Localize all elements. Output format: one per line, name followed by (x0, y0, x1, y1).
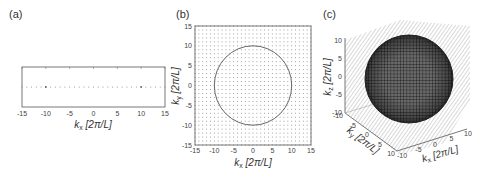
lattice-point (69, 86, 70, 87)
xtick-label: 0 (92, 110, 96, 117)
lattice-point (155, 86, 156, 87)
lattice-point (60, 86, 61, 87)
xtick-label: 0 (251, 147, 255, 154)
lattice-point (83, 86, 84, 87)
panel-b-ylabel: ky [2π/L] (170, 67, 183, 105)
lattice-point (64, 86, 65, 87)
lattice-point (55, 86, 56, 87)
ytick-label: 0 (188, 82, 192, 89)
lattice-point (112, 86, 113, 87)
lattice-point (145, 86, 146, 87)
ytick-label: -5 (186, 102, 192, 109)
figure-canvas: -15-10-5051015 kx [2π/L] -15-10-5051015 … (0, 0, 493, 179)
lattice-point (117, 86, 118, 87)
lattice-point (102, 86, 103, 87)
panel-b-xticks: -15-10-5051015 (190, 147, 315, 154)
lattice-point (98, 86, 99, 87)
ytick-label: -10 (182, 122, 192, 129)
xtick-label: 10 (288, 147, 296, 154)
ztick-label: 0 (338, 73, 342, 80)
lattice-point (50, 86, 51, 87)
lattice-point (79, 86, 80, 87)
lattice-point (36, 86, 37, 87)
lattice-point (74, 86, 75, 87)
lattice-point (126, 86, 127, 87)
ytick-label: -15 (182, 142, 192, 149)
ytick-label: 15 (184, 23, 192, 30)
panel-b-yticks: 151050-5-10-15 (182, 23, 192, 149)
lattice-point (88, 86, 89, 87)
xtick-label: -10 (209, 147, 219, 154)
xtick-label: -10 (397, 152, 407, 159)
panel-b-xlabel: kx [2π/L] (234, 157, 272, 169)
xtick-label: 0 (433, 141, 437, 148)
xtick-label: 5 (270, 147, 274, 154)
xtick-label: 5 (115, 110, 119, 117)
lattice-point (93, 86, 94, 87)
xtick-label: 15 (307, 147, 315, 154)
ytick-label: 10 (184, 42, 192, 49)
panel-a-lattice-points (21, 86, 165, 88)
xtick-label: -15 (17, 110, 27, 117)
lattice-point (107, 86, 108, 87)
ztick-label: 5 (338, 55, 342, 62)
xtick-label: -5 (415, 146, 421, 153)
panel-a-plot: -15-10-5051015 kx [2π/L] (17, 67, 169, 131)
panel-c-zlabel: kz [2π/L] (322, 58, 334, 96)
lattice-point (45, 86, 47, 88)
xtick-label: 5 (450, 135, 454, 142)
xtick-label: 10 (464, 130, 472, 137)
ytick-label: -10 (333, 112, 343, 119)
lattice-point (21, 86, 22, 87)
lattice-point (41, 86, 42, 87)
ztick-label: -5 (336, 91, 342, 98)
lattice-point (164, 86, 165, 87)
xtick-label: -5 (231, 147, 237, 154)
xtick-label: -5 (67, 110, 73, 117)
xtick-label: -10 (41, 110, 51, 117)
ytick-label: 10 (387, 150, 395, 157)
lattice-point (160, 86, 161, 87)
panel-a-xticks: -15-10-5051015 (17, 67, 169, 117)
lattice-point (31, 86, 32, 87)
xtick-label: 15 (161, 110, 169, 117)
fermi-sphere-outline (365, 35, 453, 123)
ytick-label: 5 (188, 62, 192, 69)
panel-a-xlabel: kx [2π/L] (74, 119, 112, 131)
lattice-point (136, 86, 137, 87)
panel-c-zticks: 1050-5-10 (332, 37, 342, 116)
lattice-point (140, 86, 142, 88)
lattice-point (150, 86, 151, 87)
panel-c-plot: 1050-5-10 -10-50510 -10-50510 kz [2π/L] … (322, 20, 472, 165)
xtick-label: 10 (137, 110, 145, 117)
lattice-point (26, 86, 27, 87)
panel-b-plot: -15-10-5051015 151050-5-10-15 kx [2π/L] … (170, 23, 315, 170)
panel-b-lattice-points (195, 26, 312, 146)
lattice-point (122, 86, 123, 87)
ztick-label: 10 (334, 37, 342, 44)
lattice-point (131, 86, 132, 87)
